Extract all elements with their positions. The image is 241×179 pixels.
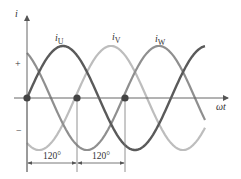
dimension-label-2: 120°: [92, 151, 110, 161]
label-iw: iW: [155, 33, 166, 47]
y-axis-label: i: [15, 8, 18, 19]
dimension-label-1: 120°: [43, 151, 61, 161]
three-phase-diagram: i ωt + − iU iV iW 120° 120°: [0, 0, 241, 179]
label-iv: iV: [112, 31, 121, 45]
x-axis-label: ωt: [216, 101, 226, 112]
label-iu: iU: [55, 32, 64, 46]
zero-crossing-dot-u: [23, 94, 30, 101]
plus-sign: +: [15, 58, 21, 69]
minus-sign: −: [16, 125, 22, 136]
zero-crossing-dot-v: [73, 94, 80, 101]
zero-crossing-dot-w: [121, 94, 128, 101]
